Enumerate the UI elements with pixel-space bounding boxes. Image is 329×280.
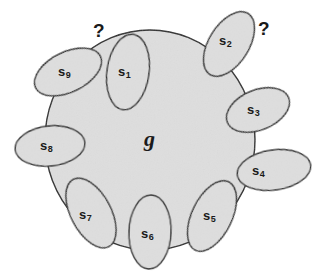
diagram-svg <box>0 0 329 280</box>
diagram-canvas: s1s2s3s4s5s6s7s8s9g?? <box>0 0 329 280</box>
